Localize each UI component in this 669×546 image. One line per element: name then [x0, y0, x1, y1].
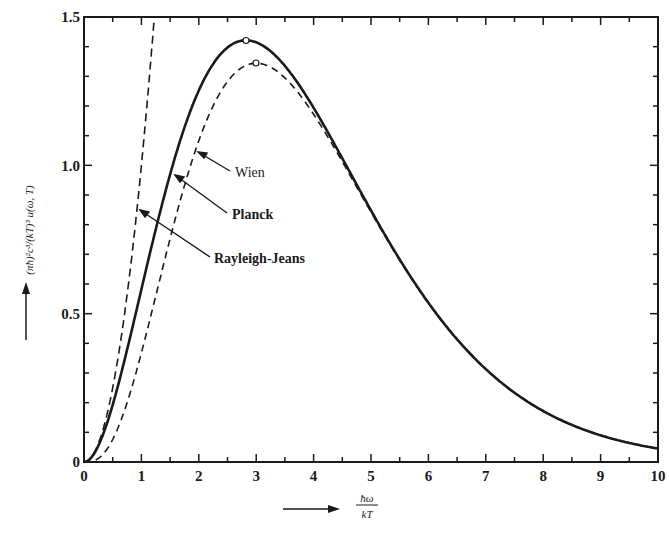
- rayleigh-jeans-label: Rayleigh-Jeans: [214, 251, 306, 266]
- y-axis-arrow-icon: [22, 282, 30, 294]
- plot-frame: [84, 17, 658, 462]
- x-tick-0: 0: [80, 468, 88, 484]
- planck-spectrum-chart: 1.5 1.0 0.5 0 012345678910 Wien Planck R…: [0, 0, 669, 546]
- x-axis-arrow-icon: [328, 505, 340, 513]
- x-axis-title: ħω kT: [283, 492, 378, 520]
- x-tick-5: 5: [367, 468, 375, 484]
- planck-curve: [84, 40, 658, 462]
- x-tick-2: 2: [195, 468, 203, 484]
- y-tick-0: 0: [73, 454, 81, 470]
- x-axis-numerator: ħω: [360, 492, 374, 504]
- x-tick-3: 3: [252, 468, 260, 484]
- rayleigh-jeans-curve: [84, 17, 154, 462]
- x-axis-denominator: kT: [362, 508, 374, 520]
- y-tick-1-5: 1.5: [61, 9, 80, 25]
- wien-label: Wien: [235, 165, 265, 180]
- x-tick-9: 9: [597, 468, 605, 484]
- x-tick-6: 6: [425, 468, 433, 484]
- x-tick-8: 8: [539, 468, 547, 484]
- planck-peak-marker: [243, 38, 249, 44]
- x-tick-4: 4: [310, 468, 318, 484]
- y-axis-title: (πħ)²c³/(kT)³ u(ω, T): [22, 185, 36, 340]
- wien-peak-marker: [253, 60, 259, 66]
- axis-ticks: [84, 17, 658, 462]
- y-axis-tick-labels: 1.5 1.0 0.5 0: [61, 9, 80, 470]
- y-axis-label: (πħ)²c³/(kT)³ u(ω, T): [23, 185, 36, 275]
- x-tick-10: 10: [651, 468, 666, 484]
- x-tick-1: 1: [138, 468, 146, 484]
- y-tick-0-5: 0.5: [61, 306, 80, 322]
- planck-label: Planck: [232, 207, 273, 222]
- x-axis-tick-labels: 012345678910: [80, 468, 665, 484]
- y-tick-1-0: 1.0: [61, 158, 80, 174]
- wien-curve: [84, 63, 658, 462]
- x-tick-7: 7: [482, 468, 490, 484]
